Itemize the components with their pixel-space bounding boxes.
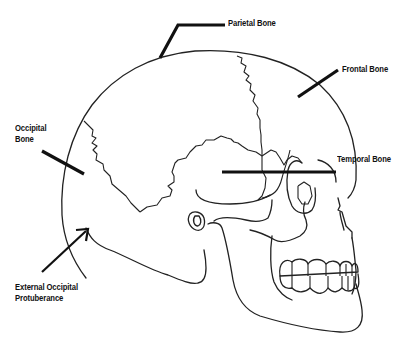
- orbit-outline: [287, 161, 316, 213]
- greater-wing: [262, 150, 290, 198]
- mandible-ramus-front: [271, 236, 292, 300]
- label-protuberance-line2: Protuberance: [15, 293, 63, 304]
- coronal-suture: [237, 56, 262, 156]
- nasal-bone: [338, 198, 352, 238]
- occipital-base-outline: [86, 228, 206, 283]
- mandible-outline: [208, 223, 362, 332]
- sphenoid-front: [258, 156, 266, 200]
- label-occipital-line1: Occipital: [15, 123, 47, 134]
- external-auditory-meatus: [188, 212, 204, 230]
- zygomatic-arch: [196, 190, 270, 204]
- lower-teeth: [280, 274, 359, 293]
- upper-teeth: [280, 259, 358, 276]
- label-protuberance-line1: External Occipital: [15, 282, 78, 293]
- sphenoid-suture: [262, 150, 302, 165]
- parietal-leader-line: [160, 25, 225, 58]
- squamosal-suture: [140, 136, 262, 212]
- label-occipital-line2: Bone: [15, 134, 34, 145]
- label-parietal-bone: Parietal Bone: [228, 18, 276, 29]
- ear-inner: [194, 216, 201, 226]
- cranium-outline: [62, 51, 356, 278]
- lambdoid-suture: [84, 121, 140, 212]
- orbit-inner: [298, 182, 312, 204]
- label-temporal-bone: Temporal Bone: [337, 154, 391, 165]
- label-frontal-bone: Frontal Bone: [342, 64, 388, 75]
- occipital-leader-line: [42, 151, 84, 174]
